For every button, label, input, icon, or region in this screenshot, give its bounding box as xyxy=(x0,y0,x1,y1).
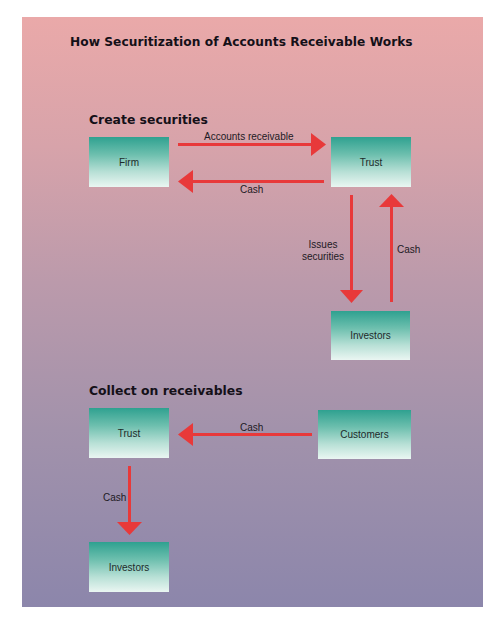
node-trust-collect: Trust xyxy=(89,408,169,458)
section-heading-collect-receivables: Collect on receivables xyxy=(89,383,243,398)
node-trust-label: Trust xyxy=(118,428,140,439)
flow-label-cash-to-investors: Cash xyxy=(103,492,126,504)
node-investors-collect: Investors xyxy=(89,542,169,592)
node-investors-label: Investors xyxy=(350,330,391,341)
flow-label-cash-from-customers: Cash xyxy=(240,422,263,434)
flow-label-issues-securities: Issues securities xyxy=(300,239,346,263)
node-investors-label: Investors xyxy=(109,562,150,573)
flow-label-accounts-receivable: Accounts receivable xyxy=(204,131,294,143)
flow-label-issues-line2: securities xyxy=(300,251,346,263)
diagram-title: How Securitization of Accounts Receivabl… xyxy=(70,35,440,49)
node-trust-label: Trust xyxy=(360,157,382,168)
node-customers-label: Customers xyxy=(340,429,388,440)
node-investors-create: Investors xyxy=(331,311,410,360)
flow-label-cash-to-trust: Cash xyxy=(397,244,420,256)
flow-label-issues-line1: Issues xyxy=(300,239,346,251)
node-firm: Firm xyxy=(89,137,169,187)
flow-label-cash-to-firm: Cash xyxy=(240,184,263,196)
section-heading-create-securities: Create securities xyxy=(89,112,208,127)
diagram-background xyxy=(22,17,483,607)
node-customers: Customers xyxy=(318,410,411,459)
node-firm-label: Firm xyxy=(119,157,139,168)
node-trust-create: Trust xyxy=(331,137,411,187)
